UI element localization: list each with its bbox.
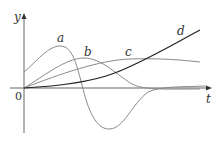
curve-a-label: a — [57, 31, 64, 45]
graph-svg: y t 0 a b c d — [0, 0, 216, 145]
curve-c-label: c — [125, 45, 132, 59]
origin-label: 0 — [15, 90, 22, 103]
x-axis-arrow-icon — [206, 86, 212, 91]
graph-figure: y t 0 a b c d — [0, 0, 216, 145]
curve-b-label: b — [84, 45, 92, 59]
y-axis-label: y — [13, 10, 21, 24]
y-axis-arrow-icon — [22, 13, 27, 19]
curve-a — [24, 46, 206, 129]
curve-d — [24, 30, 200, 88]
curve-d-label: d — [177, 24, 185, 38]
x-axis-label: t — [206, 92, 211, 106]
